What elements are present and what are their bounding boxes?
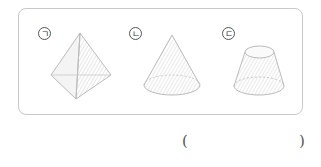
answer-close-paren: ) (299, 132, 305, 150)
answer-blank[interactable] (192, 132, 297, 148)
label-digeut: ㄷ (222, 27, 235, 40)
cone-icon (142, 33, 202, 101)
triangular-pyramid-icon (48, 30, 114, 102)
truncated-cone-icon (232, 43, 288, 101)
answer-open-paren: ( (182, 132, 188, 150)
label-nieun: ㄴ (129, 27, 142, 40)
